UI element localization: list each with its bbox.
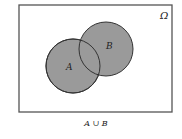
set-b-label: B	[105, 41, 113, 51]
universe-label: Ω	[159, 10, 168, 21]
venn-diagram: Ω A B A ∪ B	[0, 0, 182, 139]
set-a-label: A	[65, 62, 73, 72]
caption: A ∪ B	[83, 119, 108, 128]
